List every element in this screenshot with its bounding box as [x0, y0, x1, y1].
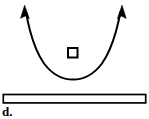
trajectory-arc-path: [26, 13, 120, 80]
right-arrowhead-icon: [117, 5, 126, 19]
figure-drawing-canvas: [0, 0, 149, 119]
object-square-icon: [68, 48, 78, 58]
panel-label: d.: [2, 105, 12, 118]
left-arrowhead-icon: [21, 5, 30, 18]
trajectory-arc-group: [21, 5, 127, 79]
base-bar-shape: [3, 95, 145, 103]
figure-panel-d: d.: [0, 0, 149, 119]
